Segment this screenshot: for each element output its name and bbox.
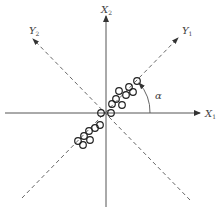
- x1-label: X1: [204, 108, 216, 120]
- y1-label: Y1: [182, 25, 192, 37]
- angle-arc: [139, 83, 150, 113]
- angle-label: α: [155, 90, 162, 101]
- y1-axis: [22, 38, 178, 198]
- y2-axis: [33, 39, 190, 200]
- x2-label: X2: [100, 4, 112, 16]
- rotated-axes-diagram: X2 Y2 Y1 X1 α: [0, 0, 224, 219]
- y2-label: Y2: [29, 25, 40, 37]
